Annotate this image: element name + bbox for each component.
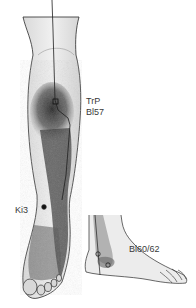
grain-texture: [20, 60, 82, 295]
label-bl57: Bl57: [86, 107, 104, 117]
label-bl60-62: Bl60/62: [129, 244, 160, 254]
ki3-marker: [42, 205, 47, 210]
leg-diagram: [0, 0, 196, 308]
label-trp: TrP: [86, 96, 100, 106]
label-ki3: Ki3: [15, 205, 28, 215]
